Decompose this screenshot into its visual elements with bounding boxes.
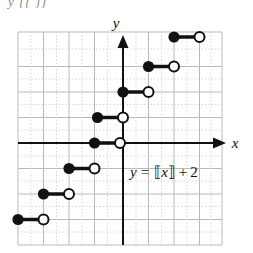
equation-bracket-close: ⟧ (168, 164, 175, 180)
open-endpoint (64, 189, 74, 199)
equation-constant: 2 (190, 164, 198, 180)
open-endpoint (39, 215, 49, 225)
equation-lhs: y (128, 164, 137, 180)
x-axis-label: x (231, 135, 239, 151)
closed-endpoint (89, 137, 100, 148)
step-segment (63, 163, 99, 174)
closed-endpoint (12, 214, 23, 225)
equation-equals: = (141, 164, 149, 180)
closed-endpoint (63, 163, 74, 174)
graph-canvas: y x y=⟦x⟧+2 (0, 0, 253, 253)
closed-endpoint (143, 61, 154, 72)
closed-endpoint (168, 31, 179, 42)
step-function-series (12, 31, 204, 225)
open-endpoint (144, 87, 154, 97)
step-segment (143, 61, 179, 72)
open-endpoint (115, 138, 125, 148)
step-function-figure: y [[ ]] (0, 0, 253, 253)
step-segment (168, 31, 204, 42)
equation-bracket-open: ⟦ (154, 164, 161, 180)
step-segment (117, 86, 153, 97)
open-endpoint (169, 62, 179, 72)
y-axis-label: y (111, 15, 120, 31)
step-segment (12, 214, 48, 225)
open-endpoint (118, 113, 128, 123)
open-endpoint (90, 164, 100, 174)
step-segment (92, 112, 128, 123)
closed-endpoint (38, 188, 49, 199)
equation-plus: + (179, 164, 187, 180)
closed-endpoint (92, 112, 103, 123)
open-endpoint (195, 32, 205, 42)
step-segment (38, 188, 74, 199)
step-segment (89, 137, 125, 148)
closed-endpoint (117, 86, 128, 97)
